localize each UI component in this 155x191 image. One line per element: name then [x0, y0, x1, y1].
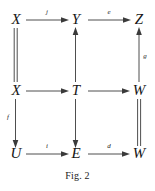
edge-t-to-y-middle — [73, 27, 79, 82]
edge-y-to-z-top — [88, 17, 131, 23]
edge-label-f: f — [1, 114, 15, 121]
node-e-bottom: E — [66, 146, 86, 161]
edge-x-to-y-top — [26, 17, 69, 23]
node-t-middle: T — [66, 83, 86, 98]
edge-e-to-w-bottom — [88, 151, 130, 157]
edge-t-to-e-middle — [73, 99, 79, 148]
node-z-top: Z — [129, 12, 149, 27]
node-w-middle: W — [129, 83, 149, 98]
node-x-middle: X — [6, 83, 26, 98]
edge-t-to-w-middle — [88, 88, 130, 94]
edge-x-to-u-left — [13, 99, 19, 148]
edge-w-equals-w-right — [138, 99, 141, 146]
node-y-top: Y — [66, 12, 86, 27]
edge-x-to-t-middle — [26, 88, 69, 94]
edge-label-i: i — [40, 143, 54, 150]
edge-label-d: d — [102, 143, 116, 150]
node-x-top: X — [6, 12, 26, 27]
edge-label-e: e — [102, 9, 116, 16]
edge-u-to-e-bottom — [26, 151, 69, 157]
figure-caption: Fig. 2 — [0, 170, 155, 182]
node-w-bottom: W — [129, 146, 149, 161]
node-u-bottom: U — [6, 146, 26, 161]
edge-x-equals-x-left — [14, 28, 17, 82]
edge-label-g: g — [138, 53, 152, 60]
edge-label-j: j — [40, 9, 54, 16]
figure-container: X Y Z X T W U E W j e g f i d Fig. 2 — [0, 0, 155, 191]
